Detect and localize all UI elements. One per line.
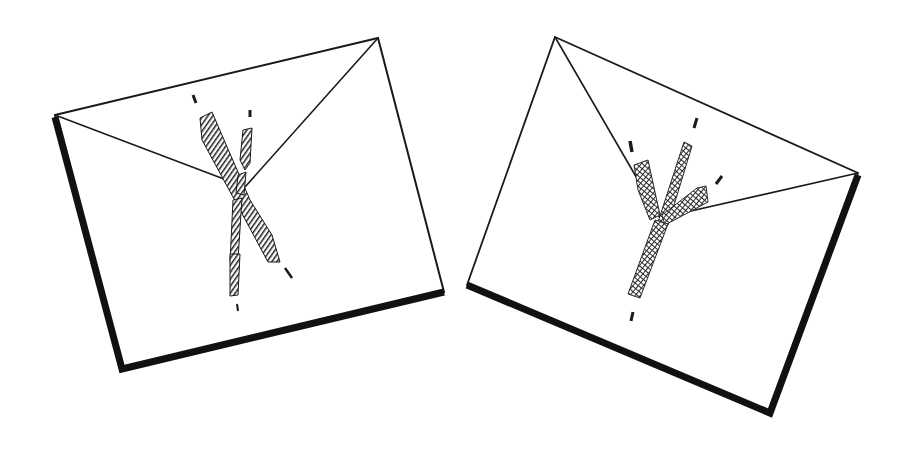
envelope-left bbox=[55, 38, 444, 369]
envelopes-drawing bbox=[0, 0, 908, 452]
envelope-right bbox=[467, 37, 858, 413]
